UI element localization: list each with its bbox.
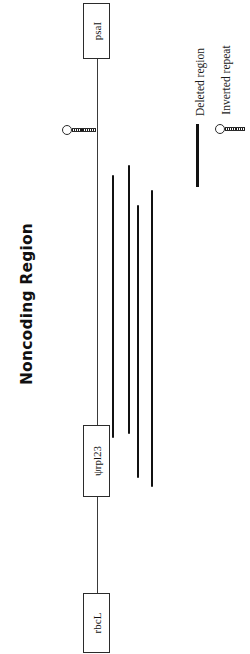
gene-box-psaI[interactable]: psaI — [83, 3, 110, 59]
legend-label-inverted-repeat: Inverted repeat — [220, 17, 232, 143]
backbone-line-upper — [97, 58, 98, 426]
deleted-region-bar-4[interactable] — [151, 190, 153, 487]
lollipop-stem-icon — [72, 128, 96, 132]
gene-label-rbcL: rbcL — [91, 613, 103, 634]
gene-box-rbcL[interactable]: rbcL — [83, 593, 110, 653]
lollipop-head-icon — [62, 125, 72, 135]
gene-box-rpl23-pseudogene[interactable]: ψrpl23 — [83, 425, 110, 497]
backbone-line-lower — [97, 496, 98, 594]
gene-label-rpl23-pseudogene: ψrpl23 — [91, 446, 103, 476]
deleted-region-bar-3[interactable] — [137, 205, 139, 478]
legend-label-deleted-region: Deleted region — [194, 22, 206, 142]
deleted-region-bar-1[interactable] — [112, 175, 114, 438]
gene-label-psaI: psaI — [91, 22, 103, 40]
deleted-region-bar-2[interactable] — [128, 165, 130, 434]
page-title: Noncoding Region — [18, 204, 36, 404]
figure-canvas: Noncoding Region psaI ψrpl23 rbcL Delete… — [0, 0, 250, 654]
